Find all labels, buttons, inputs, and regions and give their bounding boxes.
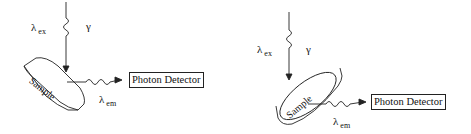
photon-detector-box: Photon Detector	[129, 72, 204, 88]
lambda-symbol: λ	[257, 43, 262, 55]
photon-label: γ	[86, 21, 91, 32]
lambda-symbol: λ	[31, 21, 36, 33]
excitation-wavelength-label: λex	[31, 22, 46, 33]
emission-beam-icon	[308, 99, 366, 107]
excitation-wavelength-label: λex	[257, 44, 272, 55]
em-subscript: em	[106, 99, 116, 108]
diagram-right: λex γ Sample λem Photon Detector	[240, 0, 471, 134]
photon-label: γ	[306, 44, 311, 55]
photon-detector-box: Photon Detector	[371, 94, 446, 110]
em-subscript: em	[340, 121, 350, 130]
diagram-left: λex γ Sample λem Photon Detector	[0, 0, 240, 134]
lambda-symbol: λ	[333, 115, 338, 127]
lambda-symbol: λ	[99, 93, 104, 105]
emission-wavelength-label: λem	[99, 94, 116, 105]
excitation-beam-icon	[63, 2, 69, 72]
excitation-beam-icon	[286, 12, 292, 80]
ex-subscript: ex	[264, 49, 272, 58]
right-diagram-drawing	[240, 0, 471, 134]
ex-subscript: ex	[38, 27, 46, 36]
emission-wavelength-label: λem	[333, 116, 350, 127]
